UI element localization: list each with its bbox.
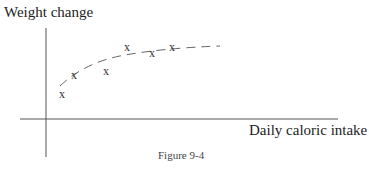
x-marker-icon: x bbox=[71, 68, 77, 82]
x-marker-icon: x bbox=[59, 87, 65, 101]
x-marker-icon: x bbox=[149, 46, 155, 60]
x-marker-icon: x bbox=[124, 40, 130, 54]
plot-area: xxxxxx bbox=[0, 0, 369, 170]
x-marker-icon: x bbox=[103, 64, 109, 78]
x-marker-icon: x bbox=[169, 40, 175, 54]
dashed-trend-curve bbox=[60, 46, 220, 86]
data-points: xxxxxx bbox=[59, 40, 175, 101]
